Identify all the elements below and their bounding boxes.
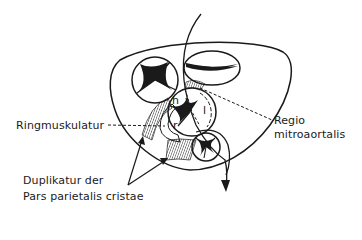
letter-r: r: [173, 119, 178, 132]
letter-l: l: [203, 104, 206, 117]
duplikatur-arrow-2: [128, 160, 166, 185]
arrow-head-up-icon: [138, 136, 145, 145]
label-regio: Regio: [274, 114, 305, 127]
ring-musculature-band: [142, 98, 172, 140]
lower-loop: [196, 130, 230, 175]
central-valve: h l r: [168, 88, 216, 136]
arrow-head-down-icon: [221, 180, 230, 192]
label-ringmuskulatur: Ringmuskulatur: [16, 119, 104, 132]
duplikatur-arrow-1: [128, 140, 142, 185]
upper-right-valve: [184, 51, 240, 85]
label-mitroaortalis: mitroaortalis: [274, 128, 345, 141]
lower-valve: [192, 133, 220, 161]
label-duplikatur: Duplikatur der: [23, 174, 103, 187]
outer-ring: [110, 42, 291, 170]
label-pars-parietalis: Pars parietalis cristae: [23, 190, 144, 203]
